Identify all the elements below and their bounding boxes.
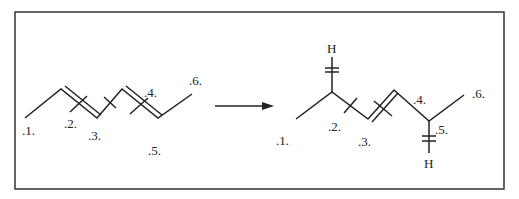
reaction-arrow [215,102,274,110]
hydrogen-bottom: H [424,156,433,171]
reactant-label-4: .4. [144,85,157,100]
product-label-2: .2. [328,119,341,134]
hydrogen-top: H [327,41,336,56]
product-molecule: H H .1. .2. .3. .4. .5. .6. [276,41,485,171]
reaction-diagram: .1. .2. .3. .4. .5. .6. H H .1. .2. .3. … [0,0,519,199]
reactant-label-6: .6. [189,73,202,88]
product-label-5: .5. [435,122,448,137]
reactant-molecule: .1. .2. .3. .4. .5. .6. [22,73,202,158]
product-label-6: .6. [472,86,485,101]
reactant-label-5: .5. [148,143,161,158]
reactant-label-3: .3. [88,128,101,143]
reactant-label-1: .1. [22,123,35,138]
product-label-3: .3. [358,134,371,149]
product-label-4: .4. [413,92,426,107]
product-label-1: .1. [276,133,289,148]
reactant-label-2: .2. [64,116,77,131]
